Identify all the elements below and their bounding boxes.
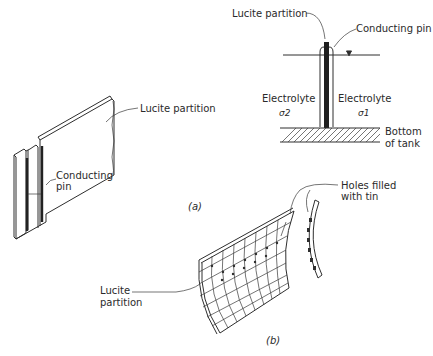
caption-b: (b) bbox=[266, 335, 280, 346]
curved-partition-mesh-drawing bbox=[199, 200, 322, 334]
label-holes-line1: Holes filled bbox=[341, 180, 396, 191]
label-lucite-partition-section: Lucite partition bbox=[232, 8, 308, 19]
label-conducting-pin-section: Conducting pin bbox=[356, 23, 432, 34]
label-conducting-pin-a-line2: pin bbox=[56, 181, 71, 192]
leader-line bbox=[132, 284, 200, 292]
leader-line bbox=[46, 179, 56, 185]
label-bottom-of-tank-line2: of tank bbox=[385, 138, 420, 149]
label-sigma-1: σ1 bbox=[358, 108, 369, 118]
leader-line bbox=[290, 184, 338, 214]
label-lucite-partition-b-line1: Lucite bbox=[100, 285, 130, 296]
leader-line bbox=[306, 13, 325, 39]
section-view-drawing bbox=[280, 42, 380, 142]
figure: Lucite partition Conducting pin Lucite p… bbox=[0, 0, 433, 356]
label-holes-line2: with tin bbox=[341, 191, 378, 202]
label-lucite-partition-b-line2: partition bbox=[100, 297, 142, 308]
leader-line bbox=[306, 190, 310, 212]
leader-line bbox=[106, 108, 138, 122]
label-electrolyte-right: Electrolyte bbox=[338, 93, 391, 104]
perspective-partition-drawing bbox=[14, 96, 114, 239]
label-lucite-partition-a: Lucite partition bbox=[140, 103, 216, 114]
label-sigma-2: σ2 bbox=[279, 108, 291, 118]
label-electrolyte-left: Electrolyte bbox=[262, 93, 315, 104]
label-bottom-of-tank-line1: Bottom bbox=[385, 126, 422, 137]
label-conducting-pin-a-line1: Conducting bbox=[56, 170, 113, 181]
caption-a: (a) bbox=[188, 201, 202, 212]
leader-line bbox=[334, 29, 356, 47]
